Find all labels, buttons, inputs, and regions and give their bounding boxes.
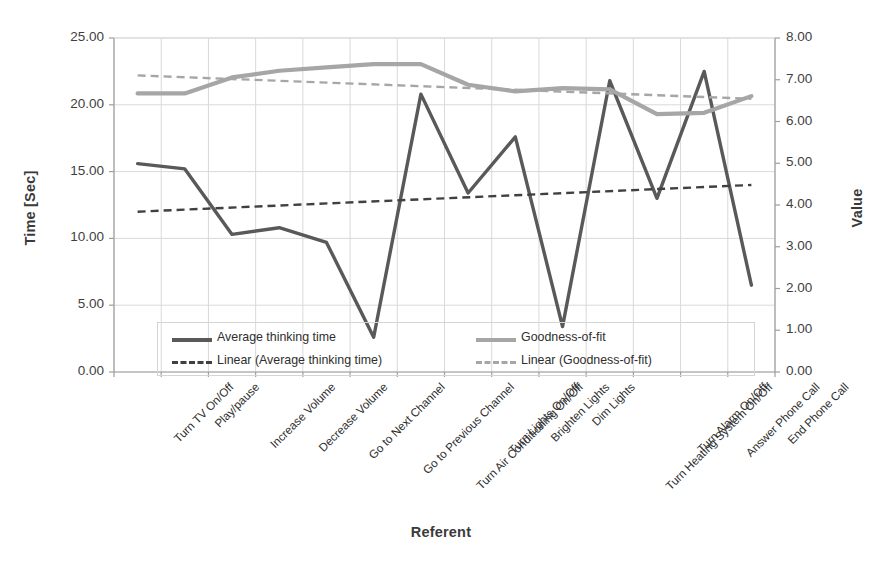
legend-swatch [172,338,212,342]
plot-area [0,0,882,564]
chart-legend: Average thinking timeLinear (Average thi… [157,322,755,376]
legend-label: Goodness-of-fit [521,330,606,344]
y-tick-left: 5.00 [40,296,104,311]
legend-label: Average thinking time [217,330,336,344]
y-tick-right: 8.00 [786,29,846,44]
y-tick-right: 5.00 [786,154,846,169]
y-tick-left: 15.00 [40,163,104,178]
y-tick-left: 25.00 [40,29,104,44]
y-tick-right: 3.00 [786,238,846,253]
y-tick-left: 20.00 [40,96,104,111]
legend-label: Linear (Average thinking time) [217,353,382,367]
y-tick-right: 4.00 [786,196,846,211]
legend-swatch [476,361,516,364]
y-tick-right: 7.00 [786,71,846,86]
chart-figure: Time [Sec] Value Referent 0.005.0010.001… [0,0,882,564]
y-tick-left: 0.00 [40,363,104,378]
legend-swatch [172,361,212,364]
y-tick-right: 2.00 [786,280,846,295]
y-tick-right: 6.00 [786,113,846,128]
legend-swatch [476,338,516,342]
y-tick-right: 0.00 [786,363,846,378]
legend-label: Linear (Goodness-of-fit) [521,353,652,367]
y-tick-right: 1.00 [786,321,846,336]
y-tick-left: 10.00 [40,229,104,244]
